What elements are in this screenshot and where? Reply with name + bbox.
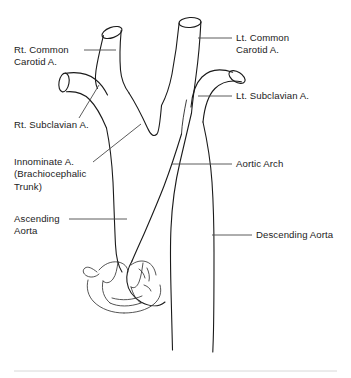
valve-cusp-center <box>103 262 118 283</box>
coronary-ostium-left <box>144 285 151 291</box>
aortic-arch-diagram: Rt. Common Carotid A. Lt. Common Carotid… <box>0 0 351 378</box>
label-descending-aorta: Descending Aorta <box>256 229 333 241</box>
rt-subclavian-lumen <box>57 72 70 92</box>
valve-commissure-upper-right <box>131 261 156 275</box>
lt-common-carotid-inner-contour <box>182 100 187 134</box>
descending-aorta-left-wall <box>170 113 191 350</box>
label-rt-common-carotid: Rt. Common Carotid A. <box>14 44 69 69</box>
leader-innominate <box>93 124 141 162</box>
label-ascending-aorta: Ascending Aorta <box>14 213 60 238</box>
leader-rt-subclavian <box>79 85 99 118</box>
valve-cusp-right <box>131 263 143 288</box>
label-aortic-arch: Aortic Arch <box>236 158 283 170</box>
valve-leaflet-lower-edge <box>110 303 141 306</box>
coronary-ostium-right <box>147 268 149 281</box>
valve-cusp-left <box>83 267 99 277</box>
lt-subclavian-upper-wall <box>191 70 233 107</box>
lt-common-carotid-lumen <box>179 17 202 29</box>
lt-subclavian-lumen <box>227 68 248 86</box>
label-rt-subclavian: Rt. Subclavian A. <box>14 119 89 131</box>
label-lt-subclavian: Lt. Subclavian A. <box>236 90 309 102</box>
valve-leaflet-left-free-edge <box>102 281 110 303</box>
rt-common-carotid-artery <box>95 24 129 93</box>
valve-commissure-upper-left <box>99 262 128 272</box>
label-lt-common-carotid: Lt. Common Carotid A. <box>236 32 289 57</box>
rt-common-carotid-right-wall <box>120 30 129 93</box>
lt-common-carotid-right-wall <box>192 22 201 113</box>
lt-common-carotid-left-wall <box>162 23 180 105</box>
descending-aorta-right-wall <box>203 122 214 352</box>
sinus-left-contour <box>87 280 124 313</box>
label-innominate: Innominate A. (Brachiocephalic Trunk) <box>14 156 86 193</box>
lt-common-carotid-artery <box>162 17 202 134</box>
